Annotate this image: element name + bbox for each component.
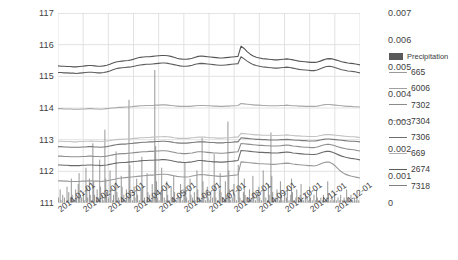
legend-label: 7302 <box>411 100 430 110</box>
y2-axis-tick-label: 0.005 <box>388 62 412 72</box>
legend-swatch-line <box>389 104 407 105</box>
y2-axis-tick-label: 0.002 <box>388 144 412 154</box>
y-axis-tick-label: 113 <box>39 135 54 145</box>
legend-label: 6006 <box>411 83 430 93</box>
plot-area <box>58 13 360 203</box>
legend-swatch-line <box>389 137 407 138</box>
legend-swatch-line <box>389 185 407 186</box>
legend-label: 2674 <box>411 164 430 174</box>
y-axis-tick-label: 117 <box>39 8 54 18</box>
legend-swatch-line <box>389 169 407 170</box>
legend-swatch-bar <box>389 53 403 60</box>
legend-item[interactable]: 7306 <box>389 129 458 145</box>
chart-svg <box>58 13 360 203</box>
y2-axis-tick-label: 0.001 <box>388 171 412 181</box>
y-axis-tick-label: 116 <box>39 40 54 50</box>
legend-label: 7306 <box>411 132 430 142</box>
y2-axis-tick-label: 0.003 <box>388 117 412 127</box>
y2-axis-tick-label: 0.004 <box>388 89 412 99</box>
y-axis-tick-label: 111 <box>40 198 54 208</box>
y-axis-tick-label: 114 <box>39 103 54 113</box>
legend-label: 665 <box>411 67 425 77</box>
y2-axis-tick-label: 0.006 <box>388 35 412 45</box>
legend-label: 7304 <box>411 116 430 126</box>
y2-axis-tick-label: 0.007 <box>388 8 412 18</box>
y2-axis-tick-label: 0 <box>388 198 393 208</box>
legend-label: Precipitation <box>407 52 448 61</box>
chart-container: Precipitation665600673027304730666926747… <box>0 0 458 260</box>
y-axis-tick-label: 115 <box>39 71 54 81</box>
legend-label: 7318 <box>411 181 430 191</box>
legend-label: 669 <box>411 148 425 158</box>
y-axis-tick-label: 112 <box>39 166 54 176</box>
